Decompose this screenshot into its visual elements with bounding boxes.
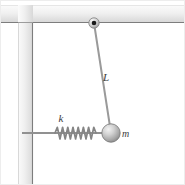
pivot-center-dot bbox=[92, 21, 97, 26]
rod-length-label: L bbox=[102, 71, 109, 83]
pivot-joint-icon bbox=[89, 18, 99, 28]
spring-constant-label: k bbox=[59, 112, 65, 124]
sphere-mass-icon bbox=[102, 124, 120, 142]
vertical-wall-fill bbox=[18, 5, 33, 185]
mass-label: m bbox=[122, 128, 129, 139]
vertical-wall bbox=[18, 5, 33, 185]
diagram-canvas: L k m bbox=[0, 0, 185, 185]
physics-diagram-figure: L k m bbox=[0, 0, 185, 185]
mass-ball bbox=[102, 124, 120, 142]
